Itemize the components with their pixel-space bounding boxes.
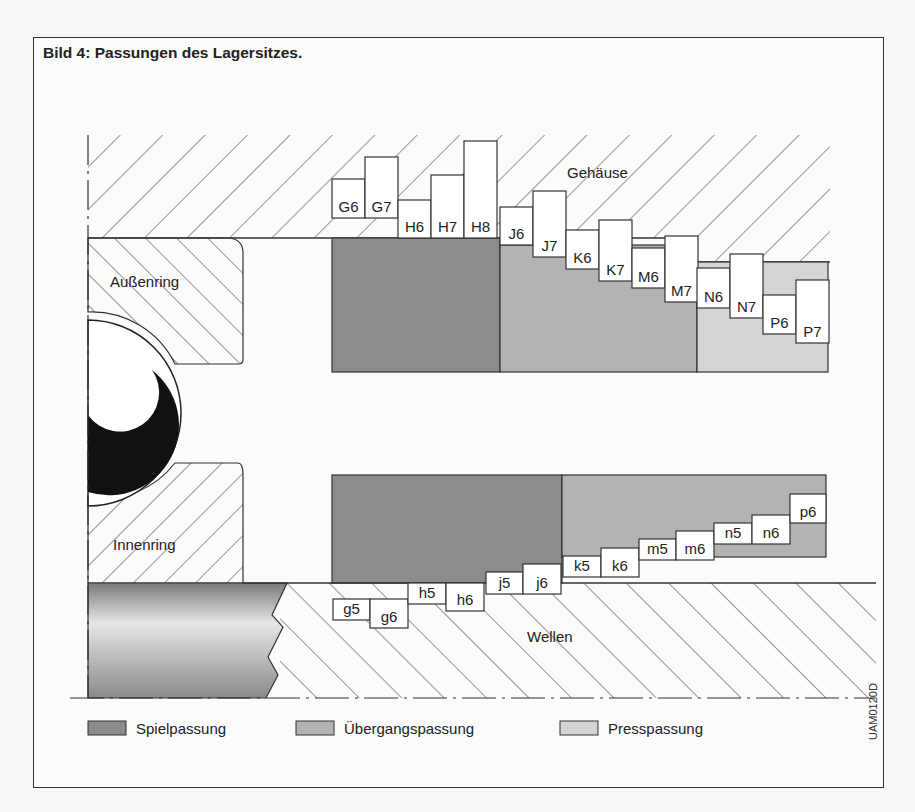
tolerance-label-N7: N7 [737,298,756,315]
tolerance-label-J6: J6 [509,225,525,242]
tolerance-label-H7: H7 [438,218,457,235]
tolerance-label-h5: h5 [419,584,436,601]
legend-label-presspassung: Presspassung [608,720,703,737]
tolerance-label-M6: M6 [638,268,659,285]
tolerance-label-G6: G6 [338,198,358,215]
label-outer-ring: Außenring [110,273,179,290]
tolerance-label-g5: g5 [343,600,360,617]
figure-code: UAM0120D [867,650,881,740]
bearing-fit-diagram: Bild 4: Passungen des Lagersitzes. [0,0,915,812]
legend-label-uebergangspassung: Übergangspassung [344,720,474,737]
zone-spielpassung-housing [332,238,500,372]
tolerance-label-K6: K6 [573,249,591,266]
tolerance-label-j5: j5 [498,574,511,591]
tolerance-label-k5: k5 [574,557,590,574]
tolerance-label-P7: P7 [803,323,821,340]
legend-swatch-presspassung [560,721,598,735]
tolerance-label-j6: j6 [535,574,548,591]
tolerance-label-K7: K7 [606,261,624,278]
label-housing: Gehäuse [567,164,628,181]
tolerance-label-P6: P6 [770,314,788,331]
diagram-canvas: G6G7H6H7H8J6J7K6K7M6M7N6N7P6P7 g5g6h5h6j… [0,0,915,812]
tolerance-label-n6: n6 [763,524,780,541]
legend-label-spielpassung: Spielpassung [136,720,226,737]
tolerance-label-h6: h6 [457,591,474,608]
tolerance-label-G7: G7 [371,198,391,215]
tolerance-label-m6: m6 [685,540,706,557]
legend-swatch-spielpassung [88,721,126,735]
tolerance-label-g6: g6 [381,608,398,625]
legend: Spielpassung Übergangspassung Presspassu… [88,720,703,737]
tolerance-label-n5: n5 [725,524,742,541]
tolerance-label-p6: p6 [800,503,817,520]
label-inner-ring: Innenring [113,536,176,553]
tolerance-label-H8: H8 [471,218,490,235]
tolerance-label-k6: k6 [612,557,628,574]
tolerance-label-J7: J7 [542,237,558,254]
figure-code-text: UAM0120D [867,683,879,740]
legend-swatch-uebergangspassung [296,721,334,735]
tolerance-label-m5: m5 [647,540,668,557]
tolerance-label-H6: H6 [405,218,424,235]
label-shaft: Wellen [527,628,573,645]
tolerance-label-M7: M7 [671,282,692,299]
tolerance-label-N6: N6 [704,288,723,305]
